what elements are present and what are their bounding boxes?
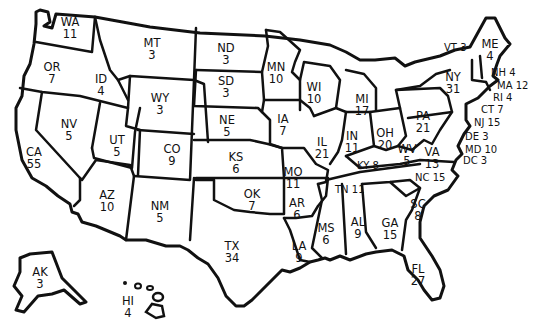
electoral-votes: 11 <box>61 28 80 40</box>
electoral-votes: 4 <box>95 85 107 97</box>
electoral-votes: 3 <box>151 104 169 116</box>
electoral-votes: 3 <box>217 54 234 66</box>
state-label-mt: MT3 <box>144 37 161 61</box>
state-label-ok: OK7 <box>244 188 261 212</box>
state-label-sc: SC8 <box>410 198 425 222</box>
electoral-votes: 5 <box>109 146 124 158</box>
state-label-de: DE 3 <box>465 131 489 142</box>
state-label-ut: UT5 <box>109 134 124 158</box>
electoral-votes: 7 <box>277 125 288 137</box>
state-label-ms: MS6 <box>317 222 334 246</box>
electoral-votes: 6 <box>229 163 244 175</box>
state-label-va: VA13 <box>425 146 440 170</box>
electoral-votes: 11 <box>345 142 360 154</box>
electoral-votes: 3 <box>32 278 47 290</box>
state-label-mi: MI17 <box>355 93 370 117</box>
state-label-fl: FL27 <box>411 263 426 287</box>
state-label-ne: NE5 <box>219 114 235 138</box>
state-label-wi: WI10 <box>307 81 322 105</box>
electoral-votes: 3 <box>144 49 161 61</box>
electoral-votes: 13 <box>425 158 440 170</box>
electoral-votes: 17 <box>355 105 370 117</box>
electoral-votes: 5 <box>61 130 77 142</box>
alaska-shape <box>14 252 86 312</box>
electoral-votes: 6 <box>289 209 305 221</box>
state-label-wy: WY3 <box>151 92 169 116</box>
state-label-nj: NJ 15 <box>474 117 500 128</box>
state-label-ky: KY 8 <box>357 160 379 171</box>
state-label-il: IL21 <box>315 136 330 160</box>
state-label-tx: TX34 <box>225 240 240 264</box>
state-label-ia: IA7 <box>277 113 288 137</box>
state-label-dc: DC 3 <box>463 155 487 166</box>
state-label-ct: CT 7 <box>481 104 504 115</box>
electoral-votes: 7 <box>43 73 60 85</box>
state-label-ma: MA 12 <box>497 80 528 91</box>
electoral-votes: 6 <box>317 234 334 246</box>
state-label-ga: GA15 <box>382 217 399 241</box>
electoral-votes: 3 <box>218 87 234 99</box>
state-label-wa: WA11 <box>61 16 80 40</box>
electoral-votes: 7 <box>244 200 261 212</box>
electoral-votes: 20 <box>376 139 394 151</box>
electoral-votes: 10 <box>267 73 286 85</box>
electoral-votes: 10 <box>99 201 115 213</box>
state-label-tn: TN 11 <box>335 184 365 195</box>
state-label-nd: ND3 <box>217 42 234 66</box>
state-label-al: AL9 <box>351 216 365 240</box>
state-label-id: ID4 <box>95 73 107 97</box>
state-label-co: CO9 <box>163 143 180 167</box>
electoral-votes: 34 <box>225 252 240 264</box>
state-label-la: LA9 <box>292 240 307 264</box>
state-label-nv: NV5 <box>61 118 77 142</box>
state-label-oh: OH20 <box>376 127 394 151</box>
electoral-votes: 4 <box>122 307 134 319</box>
electoral-votes: 9 <box>292 252 307 264</box>
state-label-ar: AR6 <box>289 197 305 221</box>
electoral-votes: 11 <box>284 178 303 190</box>
electoral-votes: 5 <box>151 212 170 224</box>
electoral-votes: 31 <box>445 83 461 95</box>
state-label-wv: WV5 <box>397 143 416 167</box>
state-label-hi: HI4 <box>122 295 134 319</box>
state-label-mn: MN10 <box>267 61 286 85</box>
electoral-votes: 9 <box>163 155 180 167</box>
electoral-votes: 10 <box>307 93 322 105</box>
state-label-ri: RI 4 <box>493 92 512 103</box>
state-label-nc: NC 15 <box>415 172 445 183</box>
state-label-pa: PA21 <box>416 110 431 134</box>
state-label-mo: MO11 <box>284 166 303 190</box>
electoral-votes: 21 <box>315 148 330 160</box>
state-label-az: AZ10 <box>99 189 115 213</box>
electoral-votes: 4 <box>481 50 498 62</box>
state-label-ny: NY31 <box>445 71 461 95</box>
electoral-votes: 27 <box>411 275 426 287</box>
electoral-votes: 21 <box>416 122 431 134</box>
state-label-sd: SD3 <box>218 75 234 99</box>
electoral-votes: 8 <box>410 210 425 222</box>
state-label-in: IN11 <box>345 130 360 154</box>
state-label-vt: VT 3 <box>444 42 467 53</box>
state-label-me: ME4 <box>481 38 498 62</box>
electoral-votes: 5 <box>219 126 235 138</box>
electoral-votes: 9 <box>351 228 365 240</box>
state-label-ca: CA55 <box>26 146 42 170</box>
state-label-md: MD 10 <box>465 144 497 155</box>
state-label-or: OR7 <box>43 61 60 85</box>
state-label-ak: AK3 <box>32 266 47 290</box>
electoral-votes: 55 <box>26 158 42 170</box>
electoral-votes: 15 <box>382 229 399 241</box>
state-label-nh: NH 4 <box>491 67 516 78</box>
electoral-votes: 5 <box>397 155 416 167</box>
state-label-nm: NM5 <box>151 200 170 224</box>
state-label-ks: KS6 <box>229 151 244 175</box>
